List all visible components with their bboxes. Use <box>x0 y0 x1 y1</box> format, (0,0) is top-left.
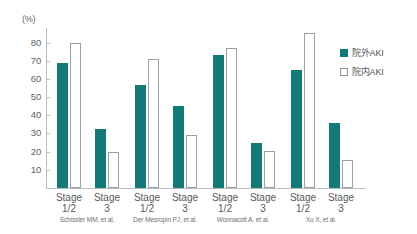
legend-item: 院外AKI <box>340 46 384 59</box>
legend-swatch-outline-icon <box>340 68 348 76</box>
y-tick-label: 50 <box>0 92 41 102</box>
plot-area <box>47 28 366 188</box>
bar-hospital-acquired <box>226 48 237 188</box>
x-category-label-line1: Stage <box>250 192 276 203</box>
bar-hospital-acquired <box>70 43 81 188</box>
y-tick-label: 30 <box>0 128 41 138</box>
chart-legend: 院外AKI院内AKI <box>340 46 384 84</box>
bar-hospital-acquired <box>264 151 275 188</box>
x-category-label-line1: Stage <box>56 192 82 203</box>
bar-hospital-acquired <box>148 59 159 188</box>
study-citation-label: Der Mesropin PJ, et al. <box>121 216 209 223</box>
x-category-label-line1: Stage <box>94 192 120 203</box>
bar-community-acquired <box>57 63 68 188</box>
x-category-label: Stage3 <box>321 192 361 214</box>
x-category-label: Stage1/2 <box>49 192 89 214</box>
x-category-label: Stage3 <box>87 192 127 214</box>
bar-community-acquired <box>173 106 184 188</box>
study-citation-label: Wonnacott A, et al. <box>199 216 287 223</box>
bar-community-acquired <box>251 143 262 188</box>
y-tick-label: 80 <box>0 38 41 48</box>
bar-community-acquired <box>291 70 302 188</box>
x-category-label-line2: 1/2 <box>49 203 89 214</box>
legend-item: 院内AKI <box>340 65 384 78</box>
x-category-label: Stage1/2 <box>283 192 323 214</box>
y-tick-label: 40 <box>0 110 41 120</box>
legend-label: 院外AKI <box>352 46 384 59</box>
x-category-label: Stage3 <box>243 192 283 214</box>
x-axis-line <box>46 188 366 189</box>
y-tick-label: 10 <box>0 165 41 175</box>
x-category-label-line2: 3 <box>165 203 205 214</box>
x-category-label-line2: 1/2 <box>205 203 245 214</box>
x-category-label-line1: Stage <box>212 192 238 203</box>
bar-community-acquired <box>135 85 146 188</box>
bar-community-acquired <box>95 129 106 188</box>
y-tick-label: 70 <box>0 56 41 66</box>
x-category-label: Stage1/2 <box>205 192 245 214</box>
x-category-label-line2: 1/2 <box>283 203 323 214</box>
y-tick-label: 60 <box>0 74 41 84</box>
bar-hospital-acquired <box>342 160 353 188</box>
x-category-label-line2: 3 <box>321 203 361 214</box>
legend-label: 院内AKI <box>352 65 384 78</box>
legend-swatch-filled-icon <box>340 49 348 57</box>
x-category-label-line2: 3 <box>243 203 283 214</box>
x-category-label-line1: Stage <box>134 192 160 203</box>
bar-chart: (%) 8070605040302010 Stage1/2Stage3Schis… <box>0 0 417 234</box>
bar-hospital-acquired <box>304 33 315 188</box>
bar-hospital-acquired <box>108 152 119 188</box>
bar-community-acquired <box>213 55 224 188</box>
x-category-label-line1: Stage <box>328 192 354 203</box>
y-tick-label: 20 <box>0 147 41 157</box>
x-category-label: Stage1/2 <box>127 192 167 214</box>
x-category-label-line1: Stage <box>172 192 198 203</box>
study-citation-label: Schissler MM, et al. <box>43 216 131 223</box>
bar-hospital-acquired <box>186 135 197 188</box>
x-category-label-line2: 3 <box>87 203 127 214</box>
bar-community-acquired <box>329 123 340 188</box>
x-category-label-line2: 1/2 <box>127 203 167 214</box>
x-category-label-line1: Stage <box>290 192 316 203</box>
y-axis-unit-label: (%) <box>22 14 35 24</box>
x-category-label: Stage3 <box>165 192 205 214</box>
study-citation-label: Xu X, et al. <box>277 216 365 223</box>
